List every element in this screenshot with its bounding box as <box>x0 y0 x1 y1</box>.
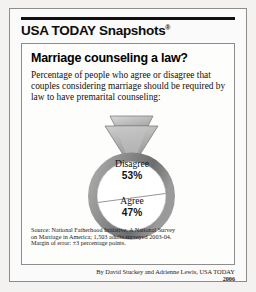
page-title: Marriage counseling a law? <box>31 51 227 65</box>
snapshot-infographic: USA TODAY Snapshots® Marriage counseling… <box>0 0 256 292</box>
masthead-rule <box>21 17 235 20</box>
source-note: Source: National Fatherhood Initiative, … <box>31 227 229 247</box>
byline: By David Stuckey and Adrienne Lewis, USA… <box>60 268 235 283</box>
source-line-3: Margin of error: ±3 percentage points. <box>31 240 229 247</box>
slice-label-disagree: Disagree 53% <box>93 159 171 181</box>
diamond-table-icon <box>110 116 153 126</box>
slice-label-agree: Agree 47% <box>93 196 171 218</box>
ring-pie-chart: Disagree 53% Agree 47% <box>69 106 194 241</box>
brand-name: USA TODAY Snapshots <box>21 23 165 38</box>
slice-name-agree: Agree <box>93 196 171 207</box>
chart-panel: Marriage counseling a law? Percentage of… <box>21 43 235 265</box>
slice-value-agree: 47% <box>93 207 171 218</box>
slice-value-disagree: 53% <box>93 170 171 181</box>
masthead-title: USA TODAY Snapshots® <box>21 23 170 38</box>
byline-credit: By David Stuckey and Adrienne Lewis, USA… <box>96 268 235 275</box>
slice-name-disagree: Disagree <box>93 159 171 170</box>
registered-mark-icon: ® <box>165 24 170 31</box>
panel-subtitle: Percentage of people who agree or disagr… <box>31 70 228 104</box>
byline-year: 2006 <box>60 275 235 282</box>
